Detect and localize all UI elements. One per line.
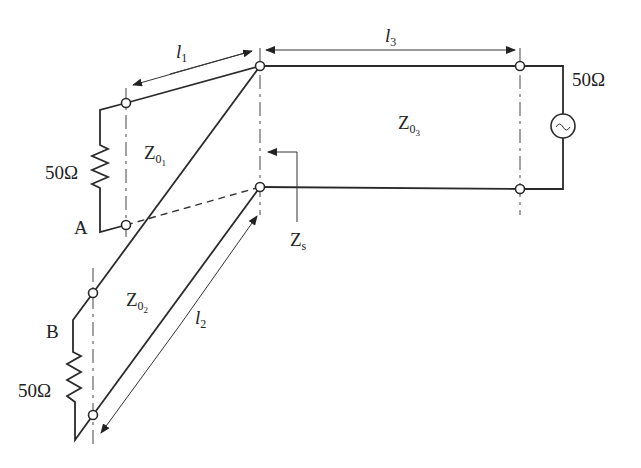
resistor-load-a (92, 103, 126, 232)
label-zs: Zs (290, 230, 306, 252)
junction-node-top (256, 62, 265, 71)
line2-top-conductor (93, 66, 260, 293)
junction-node-bottom (256, 183, 265, 192)
label-l2: l2 (195, 308, 206, 330)
node-b (89, 289, 98, 298)
l2-arrow-down (101, 325, 180, 433)
node-a (122, 221, 131, 230)
label-z01: Z01 (144, 143, 166, 168)
source-wire-bottom (520, 138, 563, 189)
ac-source-icon (551, 114, 575, 138)
line2-bottom-conductor (93, 187, 260, 415)
circuit-diagram (0, 0, 641, 468)
line1-top-conductor (126, 66, 260, 103)
label-node-b: B (46, 322, 59, 341)
line3-bottom-conductor (260, 187, 520, 189)
label-z02: Z02 (126, 290, 148, 315)
source-wire-top (520, 66, 563, 114)
label-l3: l3 (385, 26, 396, 48)
line2-node-bottom (89, 411, 98, 420)
line1-node-top (122, 99, 131, 108)
l2-arrow-up (180, 216, 257, 325)
label-load-a: 50Ω (45, 163, 78, 182)
label-load-b: 50Ω (18, 381, 51, 400)
label-l1: l1 (176, 42, 187, 64)
label-z03: Z03 (398, 113, 420, 138)
label-source: 50Ω (572, 70, 605, 89)
line1-bottom-conductor (126, 187, 260, 225)
source-node-bottom (516, 185, 525, 194)
source-node-top (516, 62, 525, 71)
label-node-a: A (74, 218, 88, 237)
